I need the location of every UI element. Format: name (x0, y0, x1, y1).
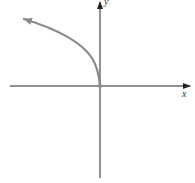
sqrt-neg-x-curve (24, 19, 100, 86)
graph-canvas: x y (0, 0, 195, 183)
origin-point (98, 84, 102, 88)
y-axis-label: y (103, 0, 109, 7)
x-axis-label: x (181, 88, 187, 99)
